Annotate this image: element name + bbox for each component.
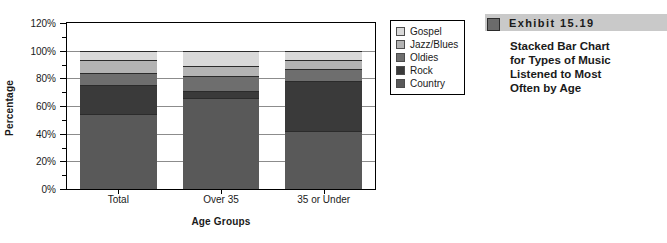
legend-label: Country: [410, 79, 445, 89]
y-tick-label: 0%: [42, 184, 56, 195]
exhibit-header: Exhibit 15.19: [485, 14, 667, 31]
plot-area: [66, 22, 376, 190]
legend-item-gospel[interactable]: Gospel: [396, 25, 458, 38]
bar-segment-jazz-blues[interactable]: [285, 60, 362, 70]
legend-item-jazz-blues[interactable]: Jazz/Blues: [396, 38, 458, 51]
y-tick-label: 100%: [30, 45, 56, 56]
stacked-bar-chart: Percentage 0%20%40%60%80%100%120% TotalO…: [0, 0, 480, 243]
legend-swatch-icon: [396, 79, 405, 88]
bar-35-or-under[interactable]: [285, 51, 362, 189]
bar-over-35[interactable]: [183, 51, 260, 189]
y-axis-ticks: 0%20%40%60%80%100%120%: [0, 22, 66, 190]
legend-label: Oldies: [410, 53, 438, 63]
legend-swatch-icon: [396, 40, 405, 49]
bar-segment-rock[interactable]: [80, 85, 157, 114]
bar-total[interactable]: [80, 51, 157, 189]
x-tick-label: Over 35: [203, 194, 239, 205]
bar-segment-oldies[interactable]: [285, 69, 362, 81]
y-tick-label: 20%: [36, 156, 56, 167]
x-axis-title: Age Groups: [66, 216, 376, 227]
exhibit-figure: Percentage 0%20%40%60%80%100%120% TotalO…: [0, 0, 667, 243]
y-tick-label: 40%: [36, 128, 56, 139]
y-tick-label: 80%: [36, 73, 56, 84]
bar-segment-gospel[interactable]: [80, 51, 157, 61]
bar-segment-country[interactable]: [285, 131, 362, 189]
bar-segment-country[interactable]: [80, 114, 157, 189]
exhibit-marker-icon: [487, 18, 500, 31]
caption-line: for Types of Music: [510, 53, 667, 67]
bar-segment-rock[interactable]: [183, 91, 260, 98]
bar-segment-jazz-blues[interactable]: [80, 60, 157, 72]
y-tick-label: 120%: [30, 18, 56, 29]
x-axis-labels: TotalOver 3535 or Under: [66, 194, 376, 210]
exhibit-caption: Stacked Bar Chartfor Types of MusicListe…: [510, 39, 667, 95]
legend-item-rock[interactable]: Rock: [396, 64, 458, 77]
caption-line: Listened to Most: [510, 67, 667, 81]
bar-segment-country[interactable]: [183, 98, 260, 189]
y-tick-label: 60%: [36, 101, 56, 112]
bar-segment-oldies[interactable]: [183, 76, 260, 91]
x-tick-label: 35 or Under: [297, 194, 350, 205]
chart-legend: GospelJazz/BluesOldiesRockCountry: [390, 20, 465, 95]
legend-label: Gospel: [410, 27, 442, 37]
exhibit-number: Exhibit 15.19: [509, 17, 594, 29]
x-tick-label: Total: [108, 194, 129, 205]
legend-item-oldies[interactable]: Oldies: [396, 51, 458, 64]
legend-item-country[interactable]: Country: [396, 77, 458, 90]
bar-segment-oldies[interactable]: [80, 73, 157, 85]
exhibit-panel: Exhibit 15.19 Stacked Bar Chartfor Types…: [485, 14, 667, 95]
legend-label: Jazz/Blues: [410, 40, 458, 50]
legend-swatch-icon: [396, 27, 405, 36]
bar-segment-gospel[interactable]: [285, 51, 362, 60]
bar-segment-rock[interactable]: [285, 81, 362, 131]
bar-segment-jazz-blues[interactable]: [183, 66, 260, 76]
legend-label: Rock: [410, 66, 433, 76]
caption-line: Stacked Bar Chart: [510, 39, 667, 53]
legend-swatch-icon: [396, 53, 405, 62]
legend-swatch-icon: [396, 66, 405, 75]
bar-segment-gospel[interactable]: [183, 51, 260, 66]
bar-group: [67, 23, 375, 189]
caption-line: Often by Age: [510, 81, 667, 95]
